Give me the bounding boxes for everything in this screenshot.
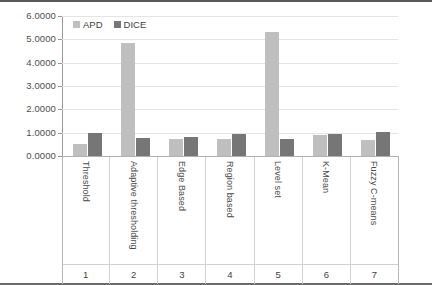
bar-apd: [169, 139, 183, 156]
category-number: 5: [255, 265, 303, 284]
chart-frame: APD DICE 0.00001.00002.00003.00004.00005…: [0, 0, 432, 285]
y-axis-label: 2.0000: [0, 103, 56, 114]
y-axis-tick: [58, 39, 62, 40]
bar-apd: [313, 135, 327, 156]
category-number: 7: [351, 265, 398, 284]
bar-group: [255, 16, 303, 156]
bar-apd: [265, 32, 279, 156]
y-axis-label: 1.0000: [0, 127, 56, 138]
category-number: 6: [303, 265, 351, 284]
category-label: K-Mean: [321, 161, 331, 193]
y-axis-label: 6.0000: [0, 10, 56, 21]
bar-dice: [88, 133, 102, 156]
bar-dice: [184, 137, 198, 156]
y-axis-tick: [58, 109, 62, 110]
y-axis-tick: [58, 63, 62, 64]
bar-group: [207, 16, 255, 156]
y-axis-label: 5.0000: [0, 33, 56, 44]
category-label-row: ThresholdAdaptive thresholdingEdge Based…: [62, 156, 398, 264]
y-axis-label: 0.0000: [0, 150, 56, 161]
y-axis-tick: [58, 133, 62, 134]
category-label: Region based: [225, 161, 235, 218]
bars-container: [63, 16, 398, 156]
category-label: Fuzzy C-means: [369, 161, 379, 225]
category-number: 1: [62, 265, 110, 284]
category-label-cell: Adaptive thresholding: [110, 157, 158, 264]
category-number: 3: [158, 265, 206, 284]
category-number: 2: [110, 265, 158, 284]
category-label: Level set: [273, 161, 283, 198]
bar-dice: [376, 132, 390, 156]
y-axis-label: 4.0000: [0, 57, 56, 68]
category-number: 4: [206, 265, 254, 284]
bar-apd: [361, 140, 375, 156]
bar-apd: [73, 144, 87, 156]
category-label-cell: Fuzzy C-means: [351, 157, 398, 264]
category-label-cell: Region based: [206, 157, 254, 264]
category-number-row: 1234567: [62, 264, 398, 284]
label-table-left-border: [62, 156, 63, 264]
bar-group: [159, 16, 207, 156]
label-table-right-border: [398, 156, 399, 264]
bar-apd: [217, 139, 231, 157]
bar-group: [303, 16, 351, 156]
category-label: Edge Based: [177, 161, 187, 211]
category-label: Threshold: [81, 161, 91, 202]
y-axis-tick: [58, 86, 62, 87]
y-axis-tick: [58, 16, 62, 17]
category-label-cell: Threshold: [62, 157, 110, 264]
bar-dice: [232, 134, 246, 156]
bar-apd: [121, 43, 135, 156]
category-label-cell: Level set: [255, 157, 303, 264]
number-row-right-border: [398, 264, 399, 284]
category-label-cell: K-Mean: [303, 157, 351, 264]
bar-group: [63, 16, 111, 156]
bar-group: [111, 16, 159, 156]
plot-area: [62, 16, 398, 156]
number-row-left-border: [62, 264, 63, 284]
bar-dice: [280, 139, 294, 156]
bar-dice: [328, 134, 342, 156]
y-axis-label: 3.0000: [0, 80, 56, 91]
bar-group: [351, 16, 399, 156]
category-label: Adaptive thresholding: [129, 161, 139, 250]
category-label-cell: Edge Based: [158, 157, 206, 264]
bar-dice: [136, 138, 150, 156]
